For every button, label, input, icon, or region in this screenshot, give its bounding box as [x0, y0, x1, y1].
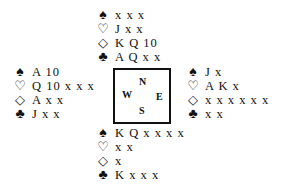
club-icon: ♣	[97, 50, 109, 64]
south-hearts: x x	[115, 140, 134, 154]
west-clubs: J x x	[32, 107, 61, 121]
east-spades: J x	[205, 65, 222, 79]
east-diamonds: x x x x x x	[205, 93, 269, 107]
compass-north-label: N	[139, 77, 146, 87]
south-spades: K Q x x x x	[115, 126, 185, 140]
spade-icon: ♠	[97, 126, 109, 140]
north-hearts: J x x	[115, 22, 144, 36]
west-diamonds: A x x	[32, 93, 64, 107]
west-spades: A 10	[32, 65, 60, 79]
east-hearts: A K x	[205, 79, 240, 93]
compass-west-label: W	[122, 90, 132, 100]
south-diamonds: x	[115, 154, 122, 168]
spade-icon: ♠	[187, 65, 199, 79]
club-icon: ♣	[97, 168, 109, 182]
diamond-icon: ◇	[97, 154, 109, 168]
spade-icon: ♠	[14, 65, 26, 79]
heart-icon: ♡	[187, 79, 199, 93]
heart-icon: ♡	[97, 140, 109, 154]
north-spades: x x x	[115, 8, 145, 22]
west-hearts: Q 10 x x x	[32, 79, 95, 93]
north-diamonds: K Q 10	[115, 36, 158, 50]
compass-east-label: E	[156, 92, 163, 102]
diamond-icon: ◇	[14, 93, 26, 107]
compass-box: N W E S	[113, 68, 171, 124]
compass-south-label: S	[139, 106, 145, 116]
heart-icon: ♡	[14, 79, 26, 93]
diamond-icon: ◇	[97, 36, 109, 50]
heart-icon: ♡	[97, 22, 109, 36]
south-clubs: K x x x	[115, 168, 159, 182]
north-clubs: A Q x x	[115, 50, 161, 64]
club-icon: ♣	[187, 107, 199, 121]
spade-icon: ♠	[97, 8, 109, 22]
east-clubs: x x	[205, 107, 224, 121]
diamond-icon: ◇	[187, 93, 199, 107]
club-icon: ♣	[14, 107, 26, 121]
